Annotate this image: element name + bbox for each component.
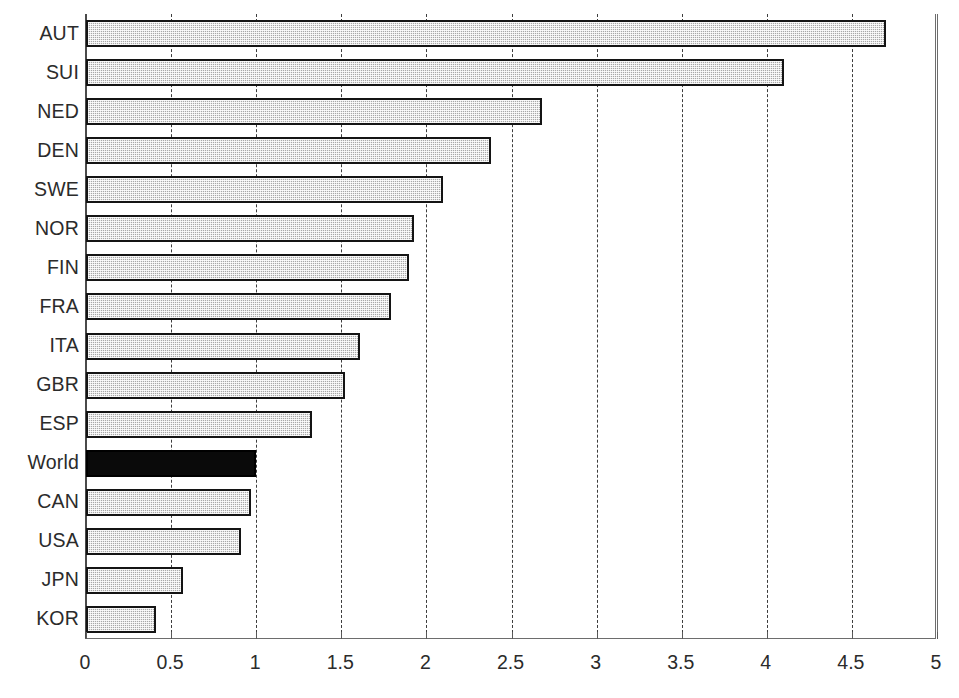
- x-tick-mark-2.5: [512, 632, 513, 639]
- x-tick-mark-5: [937, 632, 938, 639]
- bar-row: [86, 522, 935, 561]
- y-axis-label-usa: USA: [1, 532, 79, 552]
- bar-row: [86, 92, 935, 131]
- bar-row: [86, 53, 935, 92]
- x-axis-label-1: 1: [250, 653, 261, 673]
- bar-swe: [86, 176, 443, 203]
- x-axis-label-4.5: 4.5: [837, 653, 864, 673]
- x-axis-label-0: 0: [80, 653, 91, 673]
- y-axis-label-aut: AUT: [1, 24, 79, 44]
- bar-esp: [86, 411, 312, 438]
- y-axis-label-fra: FRA: [1, 297, 79, 317]
- bar-fra: [86, 293, 391, 320]
- bar-row: [86, 209, 935, 248]
- bar-row: [86, 327, 935, 366]
- bar-row: [86, 561, 935, 600]
- x-axis-labels: 00.511.522.533.544.55: [0, 645, 959, 685]
- bar-usa: [86, 528, 241, 555]
- y-axis-label-sui: SUI: [1, 63, 79, 83]
- y-axis-label-kor: KOR: [1, 610, 79, 630]
- x-axis-label-1.5: 1.5: [327, 653, 354, 673]
- x-axis-label-4: 4: [760, 653, 771, 673]
- y-axis-label-jpn: JPN: [1, 571, 79, 591]
- bar-gbr: [86, 372, 345, 399]
- bar-ned: [86, 98, 542, 125]
- x-axis-label-3: 3: [590, 653, 601, 673]
- bar-den: [86, 137, 491, 164]
- x-axis-label-2: 2: [420, 653, 431, 673]
- x-tick-mark-3.5: [682, 632, 683, 639]
- x-tick-mark-0.5: [171, 632, 172, 639]
- bar-row: [86, 287, 935, 326]
- bar-row: [86, 131, 935, 170]
- bar-kor: [86, 606, 156, 633]
- bar-world: [86, 450, 256, 477]
- x-axis-label-3.5: 3.5: [667, 653, 694, 673]
- x-axis-label-0.5: 0.5: [157, 653, 184, 673]
- y-axis-label-ned: NED: [1, 102, 79, 122]
- bar-jpn: [86, 567, 183, 594]
- y-axis-label-can: CAN: [1, 493, 79, 513]
- x-tick-mark-1: [256, 632, 257, 639]
- bar-fin: [86, 254, 409, 281]
- bar-row: [86, 444, 935, 483]
- y-axis-label-swe: SWE: [1, 180, 79, 200]
- bar-row: [86, 483, 935, 522]
- x-tick-mark-4: [767, 632, 768, 639]
- x-tick-mark-0: [86, 632, 87, 639]
- x-axis-label-2.5: 2.5: [497, 653, 524, 673]
- y-axis-label-gbr: GBR: [1, 375, 79, 395]
- y-axis-label-den: DEN: [1, 141, 79, 161]
- x-tick-mark-1.5: [341, 632, 342, 639]
- y-axis-label-ita: ITA: [1, 336, 79, 356]
- y-axis-label-esp: ESP: [1, 414, 79, 434]
- x-tick-mark-4.5: [852, 632, 853, 639]
- bars: [86, 14, 935, 638]
- x-tick-mark-3: [597, 632, 598, 639]
- bar-row: [86, 600, 935, 639]
- bar-row: [86, 14, 935, 53]
- y-axis-label-fin: FIN: [1, 258, 79, 278]
- plot-area: [85, 14, 936, 639]
- bar-row: [86, 366, 935, 405]
- bar-chart: AUTSUINEDDENSWENORFINFRAITAGBRESPWorldCA…: [0, 0, 959, 698]
- bar-can: [86, 489, 251, 516]
- y-axis-labels: AUTSUINEDDENSWENORFINFRAITAGBRESPWorldCA…: [0, 14, 79, 639]
- bar-aut: [86, 20, 886, 47]
- x-tick-mark-2: [426, 632, 427, 639]
- bar-row: [86, 405, 935, 444]
- x-axis-label-5: 5: [931, 653, 942, 673]
- gridline-5: [937, 14, 938, 638]
- bar-row: [86, 170, 935, 209]
- y-axis-label-nor: NOR: [1, 219, 79, 239]
- bar-nor: [86, 215, 414, 242]
- bar-sui: [86, 59, 784, 86]
- bar-ita: [86, 333, 360, 360]
- y-axis-label-world: World: [1, 453, 79, 473]
- bar-row: [86, 248, 935, 287]
